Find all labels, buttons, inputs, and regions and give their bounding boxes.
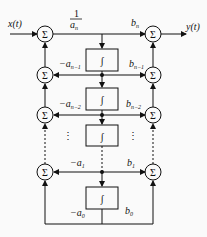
gain-top-numerator: 1 xyxy=(74,8,79,19)
integrator-symbol: ∫ xyxy=(100,94,105,106)
integrator-symbol: ∫ xyxy=(100,193,105,205)
sum-symbol: Σ xyxy=(42,70,48,81)
diagram-canvas: Σ Σ Σ Σ Σ Σ Σ Σ ∫ ∫ ∫ ∫ ⋮ ⋮ x(t) y(t) 1 … xyxy=(0,0,207,237)
gain-left-3: −a1 xyxy=(70,157,85,169)
gain-right-3: bn−2 xyxy=(126,98,141,110)
input-label: x(t) xyxy=(7,18,23,30)
gain-left-4: −a0 xyxy=(70,207,85,219)
integrator-symbol: ∫ xyxy=(100,131,105,143)
gain-left-1: −an−1 xyxy=(59,58,81,70)
gain-top-denominator: an xyxy=(70,19,78,31)
sum-symbol: Σ xyxy=(150,167,156,178)
gain-right-5: b0 xyxy=(125,205,133,217)
block-diagram: Σ Σ Σ Σ Σ Σ Σ Σ ∫ ∫ ∫ ∫ ⋮ ⋮ x(t) y(t) 1 … xyxy=(0,0,207,237)
sum-symbol: Σ xyxy=(150,70,156,81)
sum-symbol: Σ xyxy=(42,110,48,121)
gain-right-1: bn xyxy=(131,17,139,29)
sum-symbol: Σ xyxy=(150,29,156,40)
output-label: y(t) xyxy=(185,21,201,33)
sum-symbol: Σ xyxy=(150,110,156,121)
ellipsis: ⋮ xyxy=(128,130,138,141)
gain-right-2: bn−1 xyxy=(129,58,144,70)
ellipsis: ⋮ xyxy=(63,130,73,141)
gain-right-4: b1 xyxy=(127,157,135,169)
gain-left-2: −an−2 xyxy=(59,98,81,110)
sum-symbol: Σ xyxy=(42,167,48,178)
sum-symbol: Σ xyxy=(42,29,48,40)
integrator-symbol: ∫ xyxy=(100,55,105,67)
